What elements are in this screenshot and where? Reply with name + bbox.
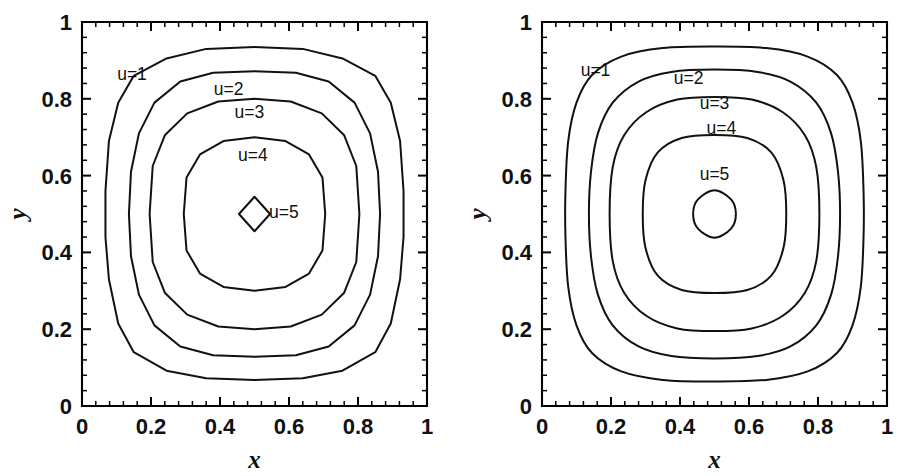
contour-label-u3: u=3: [234, 102, 264, 122]
contour-label-u1: u=1: [581, 60, 611, 80]
y-tick-label: 0.8: [501, 87, 532, 112]
x-tick-label: 0.6: [274, 414, 305, 439]
x-tick-label: 0.8: [343, 414, 374, 439]
contour-label-u2: u=2: [214, 79, 244, 99]
contour-plot-right-svg: u=1u=2u=3u=4u=500.20.40.60.8100.20.40.60…: [460, 0, 920, 476]
contour-label-u4: u=4: [707, 118, 737, 138]
contour-label-u1: u=1: [117, 64, 147, 84]
x-tick-label: 0.6: [734, 414, 765, 439]
y-tick-label: 0.4: [501, 240, 532, 265]
x-tick-label: 0: [76, 414, 88, 439]
y-tick-label: 1: [520, 10, 532, 35]
x-axis-title: x: [707, 446, 721, 473]
contour-plot-left-svg: u=1u=2u=3u=4u=500.20.40.60.8100.20.40.60…: [0, 0, 460, 476]
y-axis-title: y: [464, 208, 491, 223]
y-tick-label: 0.6: [41, 164, 72, 189]
contour-panel-right: u=1u=2u=3u=4u=500.20.40.60.8100.20.40.60…: [460, 0, 920, 476]
x-tick-label: 0.2: [136, 414, 167, 439]
x-tick-label: 1: [421, 414, 433, 439]
contour-line-u4: [643, 135, 787, 293]
x-tick-label: 0.4: [205, 414, 236, 439]
y-tick-label: 0: [60, 394, 72, 419]
contour-label-u3: u=3: [700, 93, 730, 113]
contour-line-u5: [693, 190, 736, 238]
contour-label-u5: u=5: [269, 202, 299, 222]
contour-label-u2: u=2: [674, 68, 704, 88]
contour-label-u4: u=4: [238, 145, 268, 165]
y-axis-title: y: [4, 208, 31, 223]
y-tick-label: 0.8: [41, 87, 72, 112]
y-tick-label: 0.4: [41, 240, 72, 265]
x-tick-label: 1: [881, 414, 893, 439]
x-tick-label: 0.4: [665, 414, 696, 439]
y-tick-label: 0.2: [41, 317, 72, 342]
contour-label-u5: u=5: [700, 164, 730, 184]
y-tick-label: 1: [60, 10, 72, 35]
y-tick-label: 0: [520, 394, 532, 419]
x-tick-label: 0.8: [803, 414, 834, 439]
x-axis-title: x: [247, 446, 261, 473]
x-tick-label: 0.2: [596, 414, 627, 439]
x-tick-label: 0: [536, 414, 548, 439]
contour-line-u5: [239, 197, 270, 232]
contour-line-u2: [589, 70, 840, 359]
contour-panel-left: u=1u=2u=3u=4u=500.20.40.60.8100.20.40.60…: [0, 0, 460, 476]
figure-root: u=1u=2u=3u=4u=500.20.40.60.8100.20.40.60…: [0, 0, 920, 476]
y-tick-label: 0.2: [501, 317, 532, 342]
contour-line-u3: [150, 99, 360, 329]
y-tick-label: 0.6: [501, 164, 532, 189]
